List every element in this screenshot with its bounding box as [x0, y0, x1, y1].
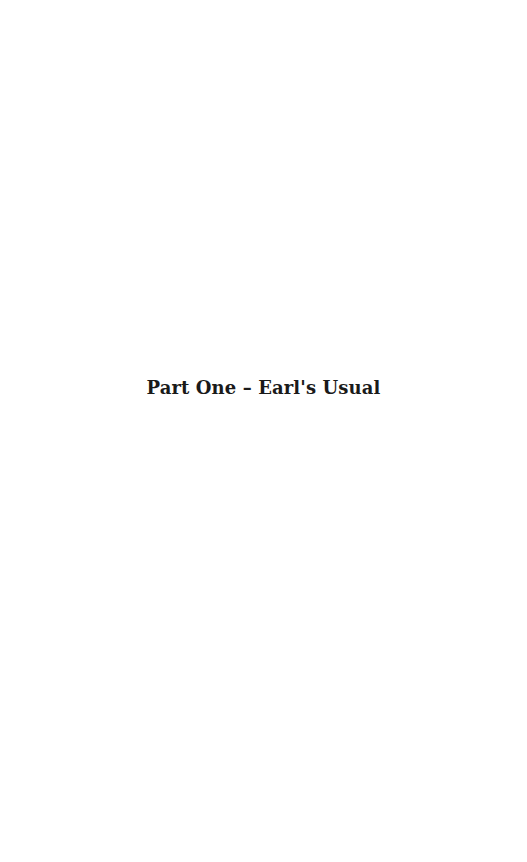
document-page: Part One – Earl's Usual: [0, 0, 527, 862]
part-heading: Part One – Earl's Usual: [0, 377, 527, 398]
